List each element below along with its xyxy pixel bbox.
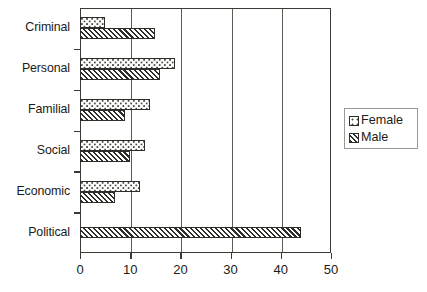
y-axis-tick — [74, 212, 80, 213]
x-axis-tick-50 — [331, 253, 332, 259]
bar-criminal-female — [80, 17, 105, 28]
bar-group — [80, 49, 331, 90]
hatched-swatch-icon — [349, 133, 359, 143]
y-axis-label-political: Political — [28, 225, 70, 239]
bar-economic-female — [80, 181, 140, 192]
x-axis-tick-30 — [231, 253, 232, 259]
bar-personal-male — [80, 69, 160, 80]
bar-political-male — [80, 227, 301, 238]
bar-group — [80, 171, 331, 212]
bar-criminal-male — [80, 28, 155, 39]
bar-social-female — [80, 140, 145, 151]
x-axis-tick-10 — [130, 253, 131, 259]
legend-item-male: Male — [349, 129, 417, 146]
x-axis-tick-20 — [180, 253, 181, 259]
bar-group — [80, 90, 331, 131]
bar-group — [80, 212, 331, 253]
x-axis-label-0: 0 — [76, 262, 83, 277]
y-axis: CriminalPersonalFamilialSocialEconomicPo… — [0, 8, 80, 253]
x-axis-label-20: 20 — [173, 262, 187, 277]
y-axis-label-social: Social — [37, 143, 70, 157]
x-axis: 01020304050 — [80, 253, 331, 292]
x-axis-label-30: 30 — [223, 262, 237, 277]
bar-familial-male — [80, 110, 125, 121]
x-axis-tick-40 — [281, 253, 282, 259]
bar-personal-female — [80, 58, 175, 69]
x-axis-label-10: 10 — [123, 262, 137, 277]
x-axis-tick-0 — [80, 253, 81, 259]
legend: FemaleMale — [344, 108, 418, 149]
bar-economic-male — [80, 192, 115, 203]
bar-group — [80, 8, 331, 49]
y-axis-tick — [74, 171, 80, 172]
bar-familial-female — [80, 99, 150, 110]
y-axis-label-familial: Familial — [28, 102, 70, 116]
y-axis-label-criminal: Criminal — [25, 20, 70, 34]
dotted-swatch-icon — [349, 116, 359, 126]
x-axis-label-40: 40 — [274, 262, 288, 277]
legend-label: Female — [361, 114, 403, 127]
legend-label: Male — [361, 131, 388, 144]
y-axis-tick — [74, 90, 80, 91]
y-axis-label-economic: Economic — [16, 184, 70, 198]
bar-chart: CriminalPersonalFamilialSocialEconomicPo… — [0, 0, 427, 292]
y-axis-tick — [74, 131, 80, 132]
legend-item-female: Female — [349, 112, 417, 129]
x-axis-label-50: 50 — [324, 262, 338, 277]
y-axis-tick — [74, 49, 80, 50]
bar-social-male — [80, 151, 130, 162]
y-axis-label-personal: Personal — [22, 61, 70, 75]
bars-layer — [80, 8, 331, 253]
bar-group — [80, 131, 331, 172]
